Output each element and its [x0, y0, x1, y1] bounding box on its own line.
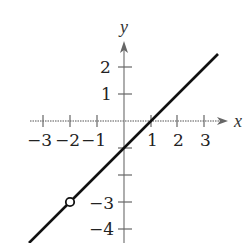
y-tick-label: 2: [100, 57, 111, 77]
x-tick-label: −1: [81, 130, 106, 150]
x-tick-label: 2: [173, 130, 184, 150]
y-tick-label: 1: [101, 84, 112, 104]
x-tick-label: −3: [27, 130, 52, 150]
x-tick-label: −2: [55, 130, 80, 150]
graph: x y −3 −2 −1 1 2 3 2 1 −3 −4: [0, 0, 245, 243]
open-circle-hole: [66, 198, 74, 206]
y-axis-label: y: [118, 17, 128, 37]
x-tick-label: 3: [200, 130, 211, 150]
y-tick-label: −3: [89, 193, 114, 213]
x-tick-label: 1: [147, 130, 158, 150]
x-axis-label: x: [233, 111, 242, 131]
y-tick-label: −4: [89, 219, 114, 239]
